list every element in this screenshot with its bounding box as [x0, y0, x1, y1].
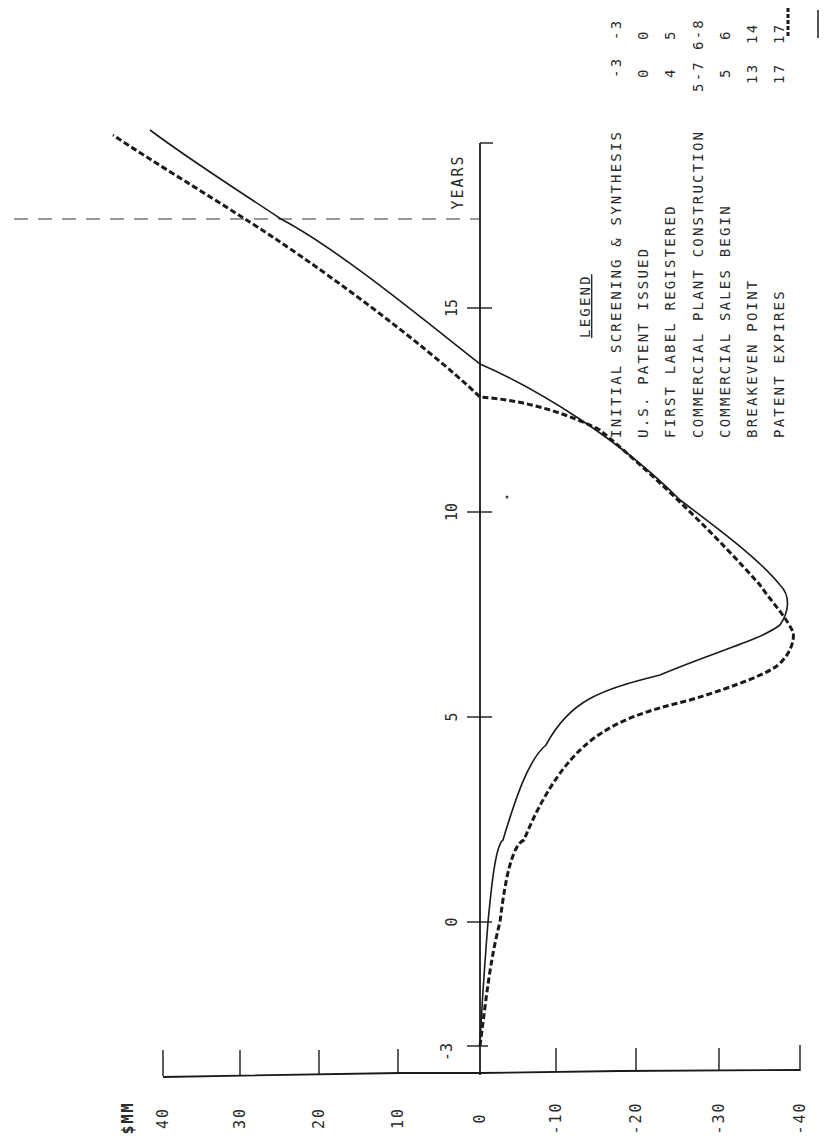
money-tick-label: 20: [310, 1107, 328, 1129]
legend-row-label: BREAKEVEN POINT: [744, 279, 760, 438]
money-tick-label: -10: [547, 1101, 565, 1134]
legend-row-label: COMMERCIAL SALES BEGIN: [717, 204, 733, 438]
legend-row: COMMERCIAL PLANT CONSTRUCTION 5-7 6-8: [690, 18, 706, 438]
year-tick-label: 15: [443, 299, 461, 317]
legend-row-dashed-value: 13: [744, 63, 760, 84]
money-tick-label: 10: [389, 1107, 407, 1129]
legend-row: U.S. PATENT ISSUED 0 0: [635, 29, 651, 438]
year-tick-label: 0: [443, 917, 461, 926]
year-tick-label: 5: [443, 712, 461, 721]
stray-mark: [506, 496, 509, 499]
legend-row-label: PATENT EXPIRES: [771, 289, 787, 438]
legend-row-dashed-value: 4: [662, 67, 678, 78]
legend-row-solid-value: 5: [662, 29, 678, 40]
money-tick-label: 0: [471, 1112, 489, 1123]
money-tick-labels: 40 30 20 10 0 -10 -20 -30 -40: [154, 1101, 809, 1134]
legend-row-solid-value: -3: [608, 19, 624, 40]
legend-row-label: COMMERCIAL PLANT CONSTRUCTION: [690, 130, 706, 438]
legend-row-dashed-value: -3: [608, 57, 624, 78]
legend-row: FIRST LABEL REGISTERED 4 5: [662, 29, 678, 438]
money-tick-label: -30: [710, 1101, 728, 1134]
year-tick-label: -3: [438, 1043, 456, 1061]
legend-row: COMMERCIAL SALES BEGIN 5 6: [717, 29, 733, 438]
legend-row-solid-value: 14: [744, 23, 760, 44]
legend-row-label: FIRST LABEL REGISTERED: [662, 204, 678, 438]
legend-row: PATENT EXPIRES 17 17: [771, 23, 787, 438]
money-tick-label: 30: [231, 1107, 249, 1129]
legend-row: BREAKEVEN POINT 13 14: [744, 23, 760, 438]
year-tick-label: 10: [443, 503, 461, 521]
legend-row-solid-value: 6-8: [690, 18, 706, 50]
y-axis-title: $MM: [119, 1101, 137, 1134]
money-tick-label: -20: [627, 1101, 645, 1134]
legend-row-solid-value: 0: [635, 29, 651, 40]
money-tick-label: -40: [791, 1101, 809, 1134]
money-tick-label: 40: [154, 1107, 172, 1129]
legend-row-dashed-value: 5-7: [690, 60, 706, 92]
legend-row-dashed-value: 5: [717, 67, 733, 78]
money-axis: [163, 1070, 800, 1077]
legend-row-dashed-value: 0: [635, 67, 651, 78]
legend-row: INITIAL SCREENING & SYNTHESIS -3 -3: [608, 19, 624, 438]
legend-row-dashed-value: 17: [771, 63, 787, 84]
legend-title: LEGEND: [577, 274, 593, 338]
legend-row-solid-value: 6: [717, 29, 733, 40]
x-axis-title: YEARS: [449, 154, 467, 209]
cash-flow-chart: -3 0 5 10 15 YEARS 40 30 20 10 0 -10 -20…: [0, 0, 838, 1144]
legend-row-label: U.S. PATENT ISSUED: [635, 247, 651, 438]
legend: LEGEND INITIAL SCREENING & SYNTHESIS -3 …: [577, 8, 818, 438]
year-tick-labels: -3 0 5 10 15: [438, 299, 461, 1061]
legend-row-label: INITIAL SCREENING & SYNTHESIS: [608, 130, 624, 438]
legend-row-solid-value: 17: [771, 23, 787, 44]
